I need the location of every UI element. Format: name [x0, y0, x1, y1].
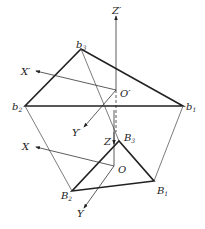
axonometric-projection-diagram: Z′ X′ Y′ O′ b3 b2 b1 Z X Y O B3 B2 B1 [0, 0, 205, 229]
label-x: X [21, 141, 30, 152]
connector-b1-B1 [154, 106, 183, 181]
label-b2: b2 [12, 101, 22, 113]
connector-b3-B3 [81, 49, 119, 141]
label-o: O [118, 164, 126, 175]
label-z-prime: Z′ [111, 5, 122, 16]
label-b3: b3 [76, 39, 86, 51]
label-y: Y [77, 208, 85, 219]
label-B3: B3 [123, 132, 135, 144]
triangle-b [25, 49, 183, 106]
diagram-svg: Z′ X′ Y′ O′ b3 b2 b1 Z X Y O B3 B2 B1 [0, 0, 205, 229]
label-x-prime: X′ [20, 66, 31, 77]
x-axis [36, 147, 114, 166]
label-o-prime: O′ [120, 88, 131, 99]
label-B1: B1 [156, 185, 168, 197]
connector-b2-B2 [25, 106, 72, 191]
label-z: Z [103, 136, 112, 147]
label-y-prime: Y′ [72, 127, 82, 138]
x-prime-axis [36, 71, 116, 90]
label-b1: b1 [186, 101, 196, 113]
